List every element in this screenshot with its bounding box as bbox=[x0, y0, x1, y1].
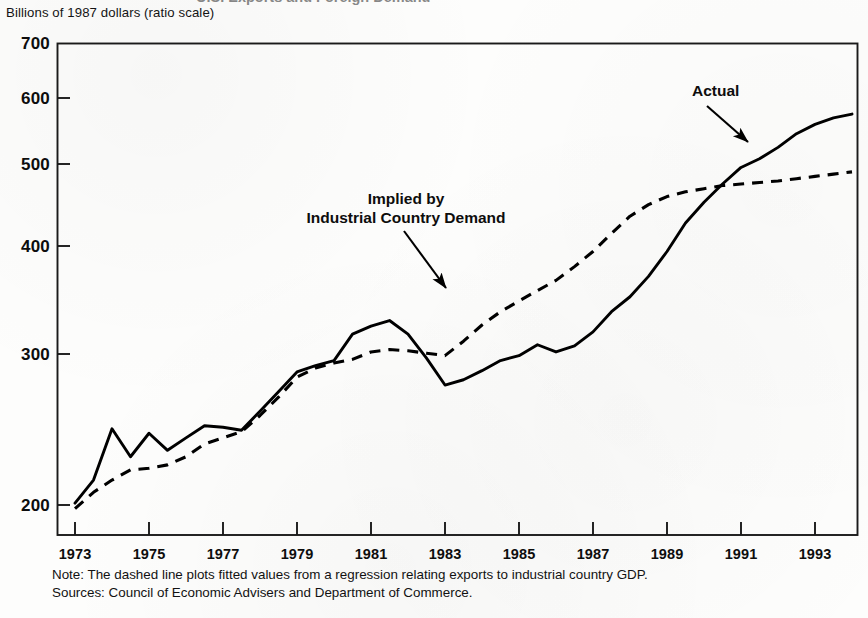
plot-area bbox=[0, 0, 868, 618]
series-line-actual bbox=[75, 114, 852, 503]
annotation-arrow-actual bbox=[707, 106, 748, 142]
footnotes-block: Note: The dashed line plots fitted value… bbox=[52, 566, 852, 603]
annotation-arrow-implied bbox=[404, 231, 446, 288]
series-line-implied-by-industrial-country-demand bbox=[75, 172, 852, 509]
footnote-sources: Sources: Council of Economic Advisers an… bbox=[52, 584, 852, 602]
footnote-note: Note: The dashed line plots fitted value… bbox=[52, 566, 852, 584]
chart-figure: U.S. Exports and Foreign Demand Billions… bbox=[0, 0, 868, 618]
y-axis-ticks bbox=[58, 98, 71, 505]
x-axis-ticks bbox=[75, 522, 815, 535]
